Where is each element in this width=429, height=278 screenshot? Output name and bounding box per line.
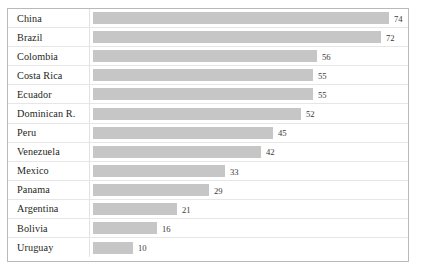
bar	[93, 127, 273, 139]
row-label-dominican-r: Dominican R.	[17, 104, 75, 122]
label-column-divider	[89, 104, 90, 122]
row-label-panama: Panama	[17, 181, 50, 199]
row-label-peru: Peru	[17, 124, 36, 142]
table-row: China74	[8, 9, 408, 28]
bar	[93, 50, 317, 62]
table-row: Uruguay10	[8, 238, 408, 257]
label-column-divider	[89, 219, 90, 237]
table-row: Mexico33	[8, 162, 408, 181]
bar	[93, 222, 157, 234]
row-label-costa-rica: Costa Rica	[17, 66, 62, 84]
row-label-argentina: Argentina	[17, 200, 58, 218]
bar-track: 55	[93, 85, 408, 103]
bar-value-label: 33	[230, 166, 239, 177]
table-row: Venezuela42	[8, 143, 408, 162]
bar-value-label: 72	[386, 32, 395, 43]
label-column-divider	[89, 143, 90, 161]
bar-track: 52	[93, 104, 408, 122]
bar-chart-rows: China74Brazil72Colombia56Costa Rica55Ecu…	[8, 9, 408, 261]
row-label-mexico: Mexico	[17, 162, 49, 180]
table-row: Colombia56	[8, 47, 408, 66]
label-column-divider	[89, 9, 90, 27]
row-label-colombia: Colombia	[17, 47, 58, 65]
bar	[93, 203, 177, 215]
bar-track: 72	[93, 28, 408, 46]
label-column-divider	[89, 66, 90, 84]
bar-value-label: 29	[214, 185, 223, 196]
bar-value-label: 74	[394, 13, 403, 24]
label-column-divider	[89, 28, 90, 46]
table-row: Brazil72	[8, 28, 408, 47]
bar-track: 21	[93, 200, 408, 218]
bar-track: 42	[93, 143, 408, 161]
row-label-bolivia: Bolivia	[17, 219, 48, 237]
bar-value-label: 45	[278, 127, 287, 138]
table-row: Argentina21	[8, 200, 408, 219]
bar-value-label: 52	[306, 108, 315, 119]
bar-track: 33	[93, 162, 408, 180]
bar-track: 16	[93, 219, 408, 237]
bar	[93, 31, 381, 43]
row-label-brazil: Brazil	[17, 28, 43, 46]
bar-value-label: 56	[322, 51, 331, 62]
row-label-china: China	[17, 9, 42, 27]
bar-track: 55	[93, 66, 408, 84]
row-label-venezuela: Venezuela	[17, 143, 60, 161]
bar-value-label: 55	[318, 89, 327, 100]
bar-value-label: 10	[138, 242, 147, 253]
bar	[93, 242, 133, 254]
bar	[93, 165, 225, 177]
bar	[93, 88, 313, 100]
table-row: Ecuador55	[8, 85, 408, 104]
bar-value-label: 16	[162, 223, 171, 234]
bar-track: 45	[93, 124, 408, 142]
table-row: Dominican R.52	[8, 104, 408, 123]
bar	[93, 12, 389, 24]
bar	[93, 69, 313, 81]
table-row: Peru45	[8, 124, 408, 143]
row-label-ecuador: Ecuador	[17, 85, 52, 103]
table-row: Costa Rica55	[8, 66, 408, 85]
label-column-divider	[89, 181, 90, 199]
bar-track: 10	[93, 238, 408, 257]
label-column-divider	[89, 47, 90, 65]
row-label-uruguay: Uruguay	[17, 238, 53, 257]
bar	[93, 146, 261, 158]
label-column-divider	[89, 85, 90, 103]
label-column-divider	[89, 200, 90, 218]
bar-value-label: 42	[266, 146, 275, 157]
label-column-divider	[89, 124, 90, 142]
chart-frame: China74Brazil72Colombia56Costa Rica55Ecu…	[7, 8, 409, 262]
label-column-divider	[89, 238, 90, 257]
bar-track: 74	[93, 9, 408, 27]
bar-track: 29	[93, 181, 408, 199]
bar	[93, 184, 209, 196]
bar	[93, 108, 301, 120]
table-row: Panama29	[8, 181, 408, 200]
bar-value-label: 21	[182, 204, 191, 215]
bar-track: 56	[93, 47, 408, 65]
table-row: Bolivia16	[8, 219, 408, 238]
bar-value-label: 55	[318, 70, 327, 81]
label-column-divider	[89, 162, 90, 180]
